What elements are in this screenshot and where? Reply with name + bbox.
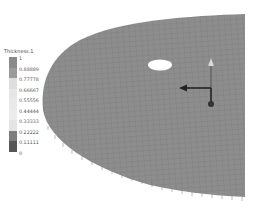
3d-viewport[interactable]: Thickness.1 1 0.88889 0.77778 0.66667 0.… <box>0 0 258 209</box>
legend-segment <box>9 89 17 100</box>
origin-marker-icon <box>208 101 214 107</box>
legend-segment <box>9 57 17 68</box>
legend-segment <box>9 78 17 89</box>
legend-segment <box>9 141 17 152</box>
legend-label: 0.33333 <box>19 117 39 128</box>
legend-label: 0.11111 <box>19 138 39 149</box>
legend-label: 0.44444 <box>19 107 39 118</box>
legend-label: 0 <box>19 149 39 160</box>
legend-labels: 1 0.88889 0.77778 0.66667 0.55556 0.4444… <box>19 54 39 159</box>
legend-label: 0.66667 <box>19 86 39 97</box>
hole <box>148 60 172 71</box>
legend-segment <box>9 99 17 110</box>
legend-label: 1 <box>19 54 39 65</box>
legend-segment <box>9 131 17 142</box>
legend-label: 0.55556 <box>19 96 39 107</box>
legend-label: 0.22222 <box>19 128 39 139</box>
shell-surface <box>43 14 245 197</box>
legend-label: 0.88889 <box>19 65 39 76</box>
legend-segment <box>9 68 17 79</box>
legend-color-bar <box>9 57 17 152</box>
legend-segment <box>9 110 17 121</box>
legend-segment <box>9 120 17 131</box>
legend-label: 0.77778 <box>19 75 39 86</box>
